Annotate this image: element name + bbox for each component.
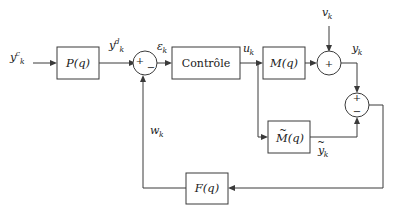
signal-label-error: εk	[157, 41, 167, 52]
arrowhead-feedback-in	[228, 185, 235, 191]
signal-label-desired: ydk	[109, 40, 125, 51]
arrowhead-error-sum-minus-in	[140, 75, 146, 82]
arrowhead-prefilter-in	[50, 60, 57, 66]
block-m-tilde-overbar: ~	[279, 125, 287, 135]
block-f-q-label: F(q)	[194, 181, 219, 195]
arrowhead-model-in	[261, 134, 268, 140]
block-controle-label: Contrôle	[182, 57, 230, 70]
comparison-sum-minus-sign: −	[353, 106, 361, 117]
error-sum-minus-sign: −	[147, 62, 155, 73]
signal-label-reference: yck	[10, 52, 25, 63]
arrowhead-output-sum-in	[310, 60, 317, 66]
block-m-q-label: M(q)	[269, 56, 298, 70]
signal-label-control: uk	[243, 43, 255, 54]
arrowhead-plant-in	[256, 60, 263, 66]
block-diagram-canvas: P(q) Contrôle M(q) M(q) ~ F(q) + − + + −…	[0, 0, 393, 210]
output-sum-plus-sign: +	[325, 58, 333, 69]
arrowhead-controller-in	[165, 60, 172, 66]
signal-label-output: yk	[352, 43, 363, 54]
signal-label-model-output: yk	[318, 145, 329, 156]
signal-label-feedback: wk	[150, 125, 164, 136]
comparison-sum-plus-sign: +	[353, 92, 361, 103]
error-sum-plus-sign: +	[136, 55, 144, 66]
block-p-q-label: P(q)	[65, 56, 90, 70]
diagram-svg: P(q) Contrôle M(q) M(q) ~ F(q) + − + + −	[0, 0, 393, 210]
arrowhead-comparison-minus-in	[354, 117, 360, 124]
signal-label-disturbance: vk	[322, 7, 333, 18]
